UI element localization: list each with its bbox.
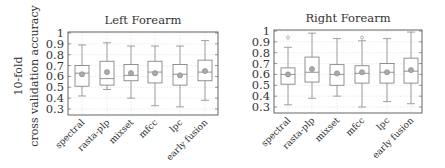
axes-frame — [274, 30, 422, 113]
boxplot-mfcc — [355, 36, 369, 107]
x-tick-label: mfcc — [344, 115, 367, 138]
y-axis-label-line1: 10-fold — [12, 57, 25, 96]
y-axis-label-line2: cross validation accuracy — [28, 4, 41, 146]
x-axis-ticks: spectralrasta-plpmixsetmfcclpcearly fusi… — [53, 117, 209, 162]
mean-marker — [202, 68, 207, 73]
mean-marker — [334, 71, 339, 76]
x-tick-label: mixset — [313, 115, 342, 144]
grid — [274, 30, 422, 113]
mean-marker — [177, 73, 182, 78]
boxplot-lpc — [380, 39, 394, 102]
chart-title: Left Forearm — [105, 13, 182, 27]
mean-marker — [128, 71, 133, 76]
mean-marker — [152, 71, 157, 76]
mean-marker — [104, 69, 109, 74]
left-forearm-chart: Left Forearm0.30.40.50.60.70.80.91spectr… — [46, 13, 218, 162]
boxplot-mixset — [124, 46, 138, 98]
mean-marker — [309, 66, 314, 71]
mean-marker — [285, 72, 290, 77]
mean-marker — [408, 67, 413, 72]
figure: 10-fold cross validation accuracy Left F… — [0, 0, 445, 168]
y-axis-label: 10-fold cross validation accuracy — [12, 4, 41, 146]
boxplot-rasta-plp — [100, 43, 114, 90]
x-tick-label: lpc — [168, 117, 185, 134]
right-forearm-chart: Right Forearm0.30.40.50.60.70.80.91spect… — [252, 11, 422, 160]
x-tick-label: mfcc — [137, 117, 160, 140]
x-tick-label: lpc — [375, 115, 392, 132]
boxplot-rasta-plp — [305, 33, 319, 98]
axes-frame — [68, 32, 218, 115]
boxplot-early-fusion — [198, 41, 212, 101]
boxplot-early-fusion — [404, 32, 418, 104]
mean-marker — [359, 70, 364, 75]
mean-marker — [79, 72, 84, 77]
chart-title: Right Forearm — [305, 11, 390, 25]
boxplot-spectral — [75, 45, 89, 96]
mean-marker — [384, 70, 389, 75]
y-tick-label: 1 — [57, 26, 64, 40]
x-axis-ticks: spectralrasta-plpmixsetmfcclpcearly fusi… — [259, 115, 415, 160]
x-tick-label: mixset — [107, 117, 136, 146]
grid — [68, 32, 218, 115]
y-tick-label: 1 — [263, 24, 270, 38]
boxplot-lpc — [173, 46, 187, 107]
boxplot-mixset — [330, 39, 344, 97]
